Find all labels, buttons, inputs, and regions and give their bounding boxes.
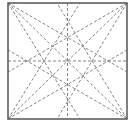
dashed-lines — [8, 3, 127, 119]
star-square-diagram — [0, 0, 134, 125]
